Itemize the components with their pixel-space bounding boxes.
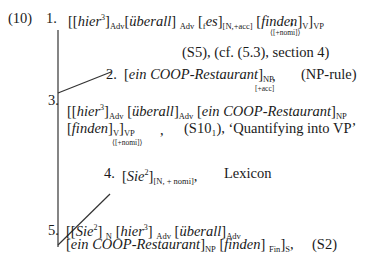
step-1-justification: (S5), (cf. (5.3), section 4) (182, 44, 329, 60)
step-3-feature: ⟨[+nomi]⟩ (112, 138, 143, 147)
step-4-justification: Lexicon (224, 165, 272, 181)
step-3-comma: , (160, 122, 164, 138)
step-2-formula: [ein COOP-Restaurant]NP (124, 66, 274, 87)
step-2-number: 2. (106, 66, 117, 82)
step-1-number: 1. (46, 10, 57, 26)
step-5-justification: (S2) (312, 236, 337, 252)
step-1-comma: , (290, 12, 294, 28)
example-number: (10) (8, 10, 32, 26)
step-2-justification: (NP-rule) (301, 66, 357, 82)
step-1-feature: ⟨[+nomi]⟩ (270, 28, 301, 37)
step-4-formula: [Sie2][N, + nomi], (122, 165, 197, 189)
step-2-comma: , (272, 68, 276, 84)
step-3-justification: (S10₁), ‘Quantifying into VP’ (184, 120, 356, 136)
step-5-formula-line-2: [ein COOP-Restaurant]NP [finden] Fin]S, (66, 236, 294, 253)
step-3-number: 3. (48, 92, 59, 108)
step-5-number: 5. (48, 222, 59, 238)
step-2-feature: [+acc] (255, 84, 274, 93)
step-4-number: 4. (104, 165, 115, 181)
